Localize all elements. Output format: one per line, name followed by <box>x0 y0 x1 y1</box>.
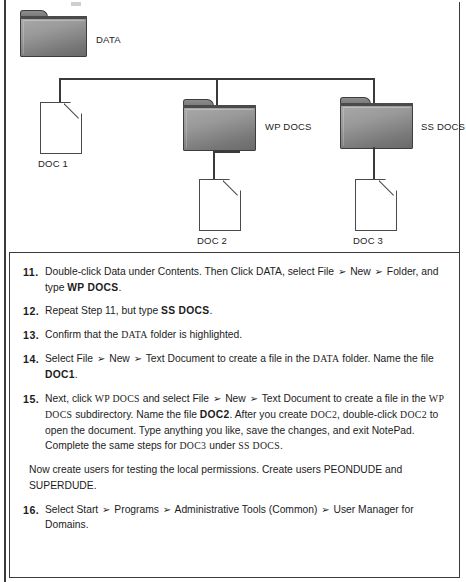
folder-tree-figure: DATA DOC 1 WP DOCS SS DOCS <box>9 2 460 252</box>
document-icon-doc3 <box>355 179 397 231</box>
document-fold-icon <box>379 178 398 197</box>
note-paragraph: Now create users for testing the local p… <box>29 462 446 493</box>
connector-wpdocs-elbow <box>213 151 240 153</box>
caption-doc3: DOC 3 <box>353 235 383 246</box>
step-text: under <box>206 440 238 451</box>
step-body: Select File ➢ New ➢ Text Document to cre… <box>45 351 446 383</box>
step-number: 16. <box>23 502 45 518</box>
step-text: folder. Name the file <box>339 353 433 364</box>
emphasis-text: DOC2 <box>200 409 230 420</box>
step-text: and select File <box>140 393 212 404</box>
folder-icon-ssdocs <box>340 97 413 149</box>
step-text: Repeat Step 11, but type <box>45 305 161 316</box>
step-text: . <box>209 305 212 316</box>
caption-wpdocs: WP DOCS <box>265 121 312 132</box>
folder-body <box>340 104 413 149</box>
code-text: DOC3 <box>180 440 207 451</box>
code-text: DOC2 <box>400 409 427 420</box>
menu-arrow-icon: ➢ <box>320 504 330 515</box>
emphasis-text: WP DOCS <box>67 282 118 293</box>
document-fold-icon <box>64 101 83 120</box>
instruction-step: 14.Select File ➢ New ➢ Text Document to … <box>23 351 446 383</box>
step-text: subdirectory. Name the file <box>72 409 199 420</box>
step-text: . <box>118 282 121 293</box>
step-number: 11. <box>23 264 45 280</box>
document-fold-icon <box>223 178 242 197</box>
step-number: 12. <box>23 303 45 319</box>
step-body: Double-click Data under Contents. Then C… <box>45 264 446 295</box>
code-text: WP DOCS <box>95 393 140 404</box>
step-text: New <box>347 266 373 277</box>
menu-arrow-icon: ➢ <box>374 266 384 277</box>
step-text: Administrative Tools (Common) <box>172 504 320 515</box>
final-step: 16.Select Start ➢ Programs ➢ Administrat… <box>23 502 446 533</box>
step-body: Next, click WP DOCS and select File ➢ Ne… <box>45 391 446 454</box>
step-text: Double-click Data under Contents. Then C… <box>45 266 337 277</box>
menu-arrow-icon: ➢ <box>96 353 106 364</box>
folder-body <box>20 17 87 57</box>
connector-bus <box>59 78 375 80</box>
instruction-step: 11.Double-click Data under Contents. The… <box>23 264 446 295</box>
step-body: Confirm that the DATA folder is highligh… <box>45 327 446 343</box>
instruction-step: 13.Confirm that the DATA folder is highl… <box>23 327 446 343</box>
code-text: DATA <box>313 353 340 364</box>
folder-lip <box>20 16 87 19</box>
step-text: New <box>222 393 248 404</box>
document-icon-doc2 <box>199 179 241 231</box>
step-text: . <box>75 369 78 380</box>
code-text: DATA <box>121 329 148 340</box>
step-text: Select File <box>45 353 96 364</box>
document-icon-doc1 <box>40 102 82 154</box>
menu-arrow-icon: ➢ <box>212 393 222 404</box>
menu-arrow-icon: ➢ <box>101 504 111 515</box>
step-text: . <box>280 440 283 451</box>
code-text: SS DOCS <box>238 440 280 451</box>
connector-ssdocs-to-doc3 <box>373 147 375 181</box>
emphasis-text: SS DOCS <box>161 305 209 316</box>
caption-data: DATA <box>96 34 121 45</box>
menu-arrow-icon: ➢ <box>337 266 347 277</box>
connector-drop-doc1 <box>59 78 61 104</box>
folder-icon-wpdocs <box>183 99 256 151</box>
menu-arrow-icon: ➢ <box>133 353 143 364</box>
step-text: folder is highlighted. <box>148 329 242 340</box>
step-text: . After you create <box>230 409 311 420</box>
step-text: Select Start <box>45 504 101 515</box>
step-body: Select Start ➢ Programs ➢ Administrative… <box>45 502 446 533</box>
folder-body <box>183 106 256 151</box>
steps-list: 11.Double-click Data under Contents. The… <box>23 264 446 454</box>
step-text: Text Document to create a file in the <box>143 353 313 364</box>
step-text: Confirm that the <box>45 329 121 340</box>
instructions-panel: 11.Double-click Data under Contents. The… <box>9 252 460 578</box>
step-text: New <box>106 353 132 364</box>
instruction-step: 12.Repeat Step 11, but type SS DOCS. <box>23 303 446 319</box>
page: DATA DOC 1 WP DOCS SS DOCS <box>0 0 466 582</box>
instruction-step: 16.Select Start ➢ Programs ➢ Administrat… <box>23 502 446 533</box>
emphasis-text: DOC1 <box>45 369 75 380</box>
code-text: DOC2 <box>310 409 337 420</box>
step-number: 15. <box>23 391 45 407</box>
step-number: 13. <box>23 327 45 343</box>
connector-wpdocs-to-doc2 <box>213 151 215 181</box>
step-text: Next, click <box>45 393 95 404</box>
step-number: 14. <box>23 351 45 367</box>
instruction-step: 15.Next, click WP DOCS and select File ➢… <box>23 391 446 454</box>
caption-ssdocs: SS DOCS <box>421 121 465 132</box>
menu-arrow-icon: ➢ <box>162 504 172 515</box>
folder-lip <box>183 105 256 108</box>
step-text: Programs <box>111 504 161 515</box>
step-body: Repeat Step 11, but type SS DOCS. <box>45 303 446 319</box>
page-bleed-mark <box>71 2 81 6</box>
menu-arrow-icon: ➢ <box>249 393 259 404</box>
step-text: , double-click <box>337 409 400 420</box>
page-left-rule <box>4 0 6 582</box>
caption-doc2: DOC 2 <box>197 235 227 246</box>
folder-lip <box>340 103 413 106</box>
folder-icon-data <box>20 10 87 57</box>
caption-doc1: DOC 1 <box>38 158 68 169</box>
step-text: Text Document to create a file in the <box>259 393 429 404</box>
